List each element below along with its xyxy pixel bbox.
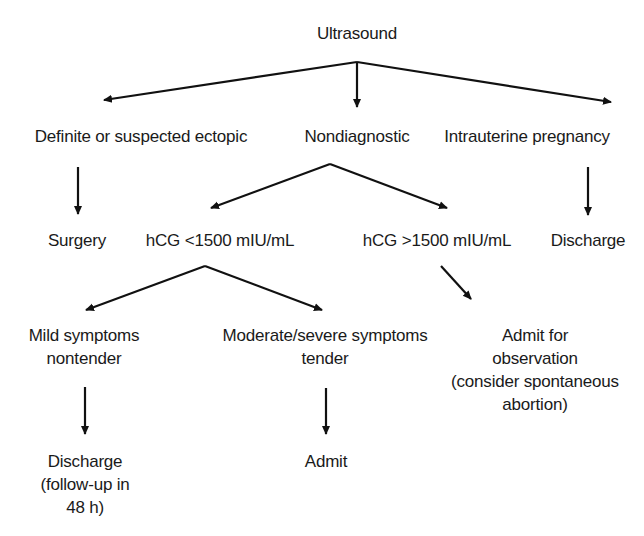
node-label: Admit: [305, 450, 347, 473]
node-line: abortion): [451, 393, 619, 416]
node-discharge-followup: Discharge (follow-up in 48 h): [40, 450, 129, 519]
node-line: (follow-up in: [40, 473, 129, 496]
node-ultrasound: Ultrasound: [317, 22, 397, 45]
node-label: Definite or suspected ectopic: [35, 125, 248, 148]
arrow-hcg-low-to-mild: [86, 266, 205, 310]
node-line: (consider spontaneous: [451, 370, 619, 393]
node-ectopic: Definite or suspected ectopic: [35, 125, 248, 148]
node-line: tender: [223, 347, 428, 370]
node-hcg-low: hCG <1500 mIU/mL: [146, 229, 294, 252]
arrow-hcg-high-to-admit-obs: [441, 266, 471, 299]
arrow-hcg-low-to-moderate: [205, 266, 322, 310]
node-intrauterine: Intrauterine pregnancy: [444, 125, 610, 148]
node-line: 48 h): [40, 496, 129, 519]
node-line: Moderate/severe symptoms: [223, 324, 428, 347]
node-label: Ultrasound: [317, 22, 397, 45]
node-admit-observation: Admit for observation (consider spontane…: [451, 324, 619, 416]
node-nondiagnostic: Nondiagnostic: [304, 125, 409, 148]
node-label: hCG <1500 mIU/mL: [146, 229, 294, 252]
arrow-ultrasound-to-ectopic: [104, 62, 357, 100]
node-label: Discharge: [551, 229, 626, 252]
node-admit: Admit: [305, 450, 347, 473]
node-line: Admit for: [451, 324, 619, 347]
node-label: Intrauterine pregnancy: [444, 125, 610, 148]
node-line: Discharge: [40, 450, 129, 473]
node-mild: Mild symptoms nontender: [29, 324, 140, 370]
node-line: nontender: [29, 347, 140, 370]
node-line: observation: [451, 347, 619, 370]
node-label: Surgery: [48, 229, 106, 252]
node-label: Nondiagnostic: [304, 125, 409, 148]
arrow-nondiagnostic-to-hcg-low: [211, 164, 330, 208]
node-surgery: Surgery: [48, 229, 106, 252]
node-hcg-high: hCG >1500 mIU/mL: [363, 229, 511, 252]
node-moderate: Moderate/severe symptoms tender: [223, 324, 428, 370]
node-label: hCG >1500 mIU/mL: [363, 229, 511, 252]
node-discharge-iup: Discharge: [551, 229, 626, 252]
node-line: Mild symptoms: [29, 324, 140, 347]
arrow-nondiagnostic-to-hcg-high: [330, 164, 447, 208]
arrow-ultrasound-to-intrauterine: [357, 62, 611, 102]
